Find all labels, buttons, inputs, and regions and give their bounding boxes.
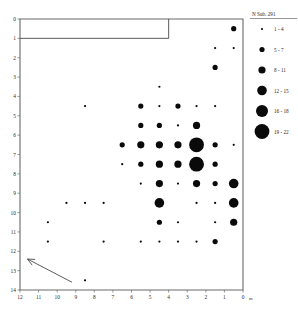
data-point (138, 104, 143, 109)
legend-symbol (255, 124, 270, 139)
data-point (177, 182, 179, 184)
data-point (84, 202, 86, 204)
legend-symbol (257, 86, 267, 96)
data-point (157, 220, 162, 225)
data-point (84, 105, 86, 107)
data-point (214, 105, 216, 107)
legend-entry-label: 8 - 11 (274, 67, 286, 73)
y-tick-label: 4 (13, 93, 16, 99)
y-tick-label: 13 (11, 268, 17, 274)
boundary-notch (20, 19, 169, 38)
data-point (138, 162, 143, 167)
data-point (121, 163, 123, 165)
y-tick-label: 14 (11, 287, 17, 293)
y-tick-label: 1 (13, 35, 16, 41)
x-tick-label: 8 (93, 294, 96, 300)
data-point (230, 219, 237, 226)
data-point (174, 141, 181, 148)
data-point (155, 198, 165, 208)
data-point (214, 221, 216, 223)
data-point (213, 181, 218, 186)
data-point (47, 241, 49, 243)
data-point (195, 202, 197, 204)
legend-symbol (259, 47, 264, 52)
data-point (157, 123, 162, 128)
data-point (140, 241, 142, 243)
data-point (193, 122, 200, 129)
data-points (47, 26, 239, 281)
data-point (138, 123, 143, 128)
x-tick-label: 11 (36, 294, 41, 300)
x-axis-unit-label: m (249, 296, 253, 301)
legend-symbol (258, 66, 265, 73)
data-point (174, 161, 181, 168)
data-point (195, 241, 197, 243)
y-axis-ticks: 01234567891011121314 (11, 16, 20, 293)
legend-entry-label: 1 - 4 (274, 26, 284, 32)
x-tick-label: 10 (54, 294, 60, 300)
data-point (229, 179, 239, 189)
data-point (120, 142, 125, 147)
x-tick-label: 5 (149, 294, 152, 300)
data-point (189, 157, 204, 172)
data-point (189, 137, 204, 152)
y-tick-label: 5 (13, 113, 16, 119)
x-tick-label: 12 (17, 294, 23, 300)
x-tick-label: 1 (223, 294, 226, 300)
y-tick-label: 11 (11, 229, 16, 235)
y-tick-label: 0 (13, 16, 16, 22)
legend-entry-label: 16 - 18 (274, 108, 289, 114)
data-point (177, 241, 179, 243)
data-point (140, 182, 142, 184)
y-tick-label: 6 (13, 132, 16, 138)
data-point (103, 241, 105, 243)
x-axis-ticks: 1211109876543210m (17, 290, 253, 301)
plot-frame (20, 19, 243, 290)
data-point (158, 105, 160, 107)
data-point (156, 161, 163, 168)
x-tick-label: 7 (112, 294, 115, 300)
data-point (47, 221, 49, 223)
data-point (103, 202, 105, 204)
y-tick-label: 3 (13, 74, 16, 80)
x-tick-label: 6 (130, 294, 133, 300)
y-tick-label: 8 (13, 171, 16, 177)
y-tick-label: 2 (13, 55, 16, 61)
data-point (231, 26, 236, 31)
legend-symbol (261, 28, 263, 30)
data-point (177, 221, 179, 223)
data-point (213, 142, 218, 147)
chart-svg: 1211109876543210m 01234567891011121314 N… (0, 0, 298, 310)
y-tick-label: 10 (11, 210, 17, 216)
data-point (137, 141, 144, 148)
x-tick-label: 3 (186, 294, 189, 300)
data-point (158, 241, 160, 243)
data-point (213, 65, 218, 70)
data-point (175, 104, 180, 109)
y-tick-label: 9 (13, 190, 16, 196)
legend-title: N Sub. 291 (252, 11, 276, 17)
legend-entry-label: 12 - 15 (274, 88, 289, 94)
legend-entry-label: 5 - 7 (274, 47, 284, 53)
y-tick-label: 12 (11, 248, 17, 254)
data-point (213, 239, 218, 244)
y-tick-label: 7 (13, 152, 16, 158)
data-point (214, 202, 216, 204)
data-point (177, 124, 179, 126)
data-point (229, 198, 239, 208)
data-point (156, 141, 163, 148)
data-point (233, 47, 235, 49)
legend-entry-label: 19 - 22 (274, 129, 289, 135)
bubble-chart-figure: 1211109876543210m 01234567891011121314 N… (0, 0, 298, 310)
data-point (193, 180, 200, 187)
legend: N Sub. 2911 - 45 - 78 - 1112 - 1516 - 18… (250, 11, 297, 139)
data-point (233, 144, 235, 146)
x-tick-label: 4 (167, 294, 170, 300)
data-point (195, 105, 197, 107)
data-point (84, 279, 86, 281)
chart-canvas: 1211109876543210m 01234567891011121314 N… (0, 0, 298, 310)
legend-symbol (256, 105, 268, 117)
trend-arrow-annotation (27, 259, 72, 282)
x-tick-label: 2 (204, 294, 207, 300)
data-point (158, 86, 160, 88)
